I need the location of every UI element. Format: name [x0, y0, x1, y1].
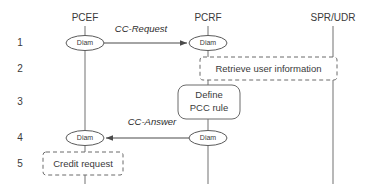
node-diam-pcef-step4-label: Diam — [77, 134, 94, 141]
sequence-diagram: PCEF PCRF SPR/UDR 1 2 3 4 5 CC-Request C… — [0, 0, 370, 186]
activity-box-label-retrieve-user-information: Retrieve user information — [215, 63, 321, 74]
node-diam-pcrf-step4-label: Diam — [200, 134, 217, 141]
activity-box-label-define-pcc-rule-line2: PCC rule — [190, 102, 229, 113]
node-diam-pcef-step1-label: Diam — [77, 39, 94, 46]
step-number-3: 3 — [17, 96, 23, 107]
sequence-diagram-canvas: PCEF PCRF SPR/UDR 1 2 3 4 5 CC-Request C… — [0, 0, 370, 186]
activity-box-label-define-pcc-rule-line1: Define — [195, 89, 222, 100]
node-diam-pcrf-step1-label: Diam — [200, 39, 217, 46]
activity-box-label-credit-request: Credit request — [53, 158, 113, 169]
lifeline-header-pcef: PCEF — [72, 12, 99, 23]
step-number-2: 2 — [17, 63, 23, 74]
step-number-1: 1 — [17, 37, 23, 48]
message-label-cc-request: CC-Request — [115, 23, 168, 34]
lifeline-header-pcrf: PCRF — [194, 12, 221, 23]
step-number-4: 4 — [17, 132, 23, 143]
step-number-5: 5 — [17, 158, 23, 169]
lifeline-header-spr-udr: SPR/UDR — [310, 12, 355, 23]
message-label-cc-answer: CC-Answer — [128, 116, 177, 127]
